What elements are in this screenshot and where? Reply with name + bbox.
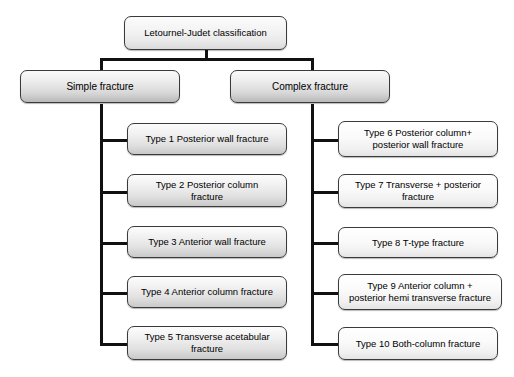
node-type-2[interactable]: Type 2 Posterior column fracture [127,174,287,207]
node-type-3-label: Type 3 Anterior wall fracture [148,236,266,248]
connector-right-branch-4 [311,292,339,295]
connector-right-branch-5 [311,343,339,346]
node-type-3[interactable]: Type 3 Anterior wall fracture [127,226,287,258]
node-type-9-label: Type 9 Anterior column + posterior hemi … [349,280,491,304]
node-simple-fracture-label: Simple fracture [66,81,133,93]
node-type-5-label: Type 5 Transverse acetabular fracture [144,331,269,355]
node-complex-fracture[interactable]: Complex fracture [230,70,390,103]
node-type-7-label: Type 7 Transverse + posterior fracture [355,179,481,203]
node-root-label: Letournel-Judet classification [144,27,267,39]
connector-right-branch-2 [311,191,339,194]
node-type-2-label: Type 2 Posterior column fracture [156,179,258,203]
connector-left-branch-3 [100,242,128,245]
node-type-6-label: Type 6 Posterior column+ posterior wall … [364,127,472,151]
node-type-8[interactable]: Type 8 T-type fracture [338,227,498,258]
flowchart-canvas: Letournel-Judet classification Simple fr… [0,0,514,377]
connector-right-branch-1 [311,139,339,142]
connector-level2-bar [100,58,314,61]
connector-left-branch-1 [100,139,128,142]
node-type-10[interactable]: Type 10 Both-column fracture [338,327,498,360]
node-type-1[interactable]: Type 1 Posterior wall fracture [127,123,287,155]
connector-right-branch-3 [311,242,339,245]
connector-to-simple [100,58,103,70]
node-type-4-label: Type 4 Anterior column fracture [141,286,273,298]
node-type-1-label: Type 1 Posterior wall fracture [145,133,268,145]
connector-left-branch-4 [100,292,128,295]
connector-left-branch-5 [100,343,128,346]
node-root[interactable]: Letournel-Judet classification [124,16,287,50]
node-complex-fracture-label: Complex fracture [272,81,348,93]
node-type-9[interactable]: Type 9 Anterior column + posterior hemi … [338,274,502,310]
node-type-10-label: Type 10 Both-column fracture [356,338,481,350]
node-type-7[interactable]: Type 7 Transverse + posterior fracture [338,174,498,208]
node-type-4[interactable]: Type 4 Anterior column fracture [127,276,287,308]
node-simple-fracture[interactable]: Simple fracture [20,70,180,103]
connector-to-complex [311,58,314,70]
connector-left-branch-2 [100,191,128,194]
node-type-5[interactable]: Type 5 Transverse acetabular fracture [127,326,287,360]
node-type-8-label: Type 8 T-type fracture [372,237,464,249]
node-type-6[interactable]: Type 6 Posterior column+ posterior wall … [338,121,498,157]
